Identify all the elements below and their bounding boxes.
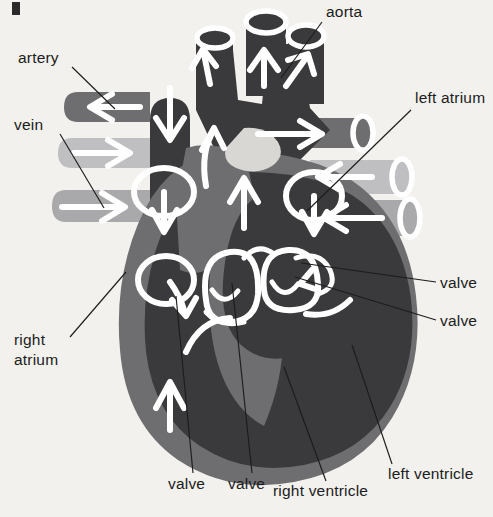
label-right-atrium-line1: right: [14, 331, 46, 348]
label-valve-right-upper: valve: [440, 274, 477, 291]
label-left-atrium: left atrium: [415, 89, 485, 106]
label-right-ventricle: right ventricle: [273, 482, 368, 499]
label-left-ventricle: left ventricle: [388, 465, 474, 482]
label-artery: artery: [18, 49, 59, 66]
label-right-atrium-line2: atrium: [14, 351, 58, 368]
label-valve-right-lower: valve: [440, 312, 477, 329]
corner-mark: [12, 2, 20, 15]
label-vein: vein: [14, 116, 43, 133]
heart-diagram-svg: artery vein right atrium aorta left atri…: [0, 0, 493, 517]
heart-diagram-figure: artery vein right atrium aorta left atri…: [0, 0, 493, 517]
label-valve-bottom-right: valve: [228, 475, 265, 492]
label-aorta: aorta: [326, 3, 363, 20]
label-valve-bottom-left: valve: [168, 475, 205, 492]
